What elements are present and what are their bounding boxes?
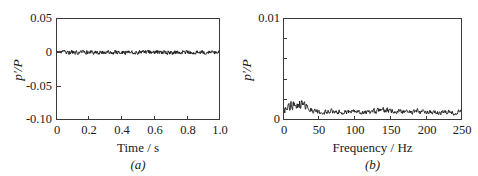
y-tick-label-a-3: -0.10 [8,113,52,126]
x-tick-label-b-4: 200 [418,124,437,137]
x-tick-mark-a-3 [154,116,155,120]
x-tick-label-a-1: 0.2 [81,124,97,137]
panel-b: 0.01 0 0 50 100 150 200 250 p'/P Frequen… [239,0,478,176]
panel-a: 0.05 0 -0.05 -0.10 0 0.2 0.4 0.6 0.8 1.0… [0,0,239,176]
panel-caption-b: (b) [283,157,462,173]
y-tick-label-b-1: 0 [239,113,280,126]
x-tick-mark-a-4 [187,116,188,120]
x-tick-label-a-5: 1.0 [212,124,228,137]
x-tick-mark-b-1 [318,116,319,120]
x-tick-label-b-0: 0 [281,124,287,137]
x-tick-label-b-5: 250 [453,124,472,137]
x-tick-label-a-2: 0.4 [114,124,130,137]
y-tick-label-b-0: 0.01 [239,12,280,25]
y-axis-title-a: p'/P [10,40,26,100]
y-minor-tick-mark-b-1 [284,58,287,59]
x-tick-mark-b-5 [461,116,462,120]
x-tick-mark-b-4 [426,116,427,120]
time-series-plot [57,19,219,119]
figure-container: 0.05 0 -0.05 -0.10 0 0.2 0.4 0.6 0.8 1.0… [0,0,478,176]
y-axis-title-b: p'/P [239,40,255,100]
x-tick-label-b-1: 50 [313,124,326,137]
spectrum-trace [284,100,461,115]
x-tick-mark-a-2 [121,116,122,120]
y-tick-mark-a-1 [57,52,61,53]
plot-area-b [283,18,462,120]
x-tick-mark-b-3 [390,116,391,120]
x-tick-label-b-3: 150 [382,124,401,137]
y-tick-mark-a-2 [57,86,61,87]
x-axis-title-a: Time / s [56,140,220,156]
y-tick-mark-a-0 [57,18,61,19]
x-tick-label-a-3: 0.6 [147,124,163,137]
y-tick-label-a-0: 0.05 [8,12,52,25]
y-tick-mark-a-3 [57,119,61,120]
x-tick-mark-b-2 [354,116,355,120]
x-tick-label-a-0: 0 [54,124,60,137]
x-tick-mark-b-0 [283,116,284,120]
y-minor-tick-mark-b-3 [284,99,287,100]
plot-area-a [56,18,220,120]
y-minor-tick-mark-b-0 [284,38,287,39]
x-tick-mark-a-0 [56,116,57,120]
spectrum-plot [284,19,461,119]
y-tick-mark-b-1 [284,119,288,120]
time-series-trace [57,50,219,55]
y-tick-mark-b-0 [284,18,288,19]
x-tick-label-b-2: 100 [346,124,365,137]
x-axis-title-b: Frequency / Hz [283,140,462,156]
y-minor-tick-mark-b-2 [284,79,287,80]
x-tick-mark-a-1 [88,116,89,120]
panel-caption-a: (a) [56,157,220,173]
x-tick-mark-a-5 [219,116,220,120]
x-tick-label-a-4: 0.8 [180,124,196,137]
